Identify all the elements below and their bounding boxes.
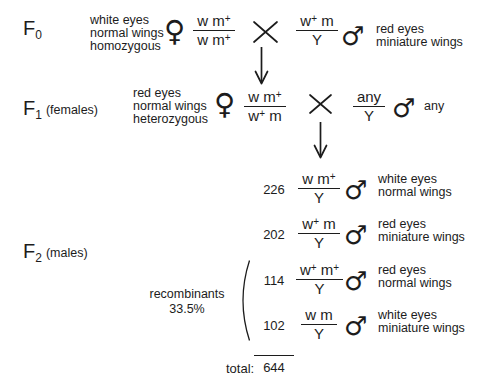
f2-row: 226 w m+ Y ♂ white eyes normal wings	[0, 169, 477, 211]
f1-label-suffix: (females)	[46, 103, 98, 117]
f0-generation-label: F0	[23, 17, 46, 42]
genotype-numerator: any	[353, 89, 385, 107]
f1-female-phenotype: red eyes normal wings heterozygous	[133, 87, 208, 126]
f1-label-letter: F	[23, 97, 35, 119]
male-symbol: ♂	[344, 222, 367, 248]
genotype-denominator: Y	[314, 189, 324, 206]
progeny-count: 114	[258, 273, 290, 288]
genotype-numerator: w m+	[244, 89, 285, 107]
progeny-count: 102	[258, 318, 290, 333]
genotype-numerator: w m	[301, 307, 337, 325]
phenotype: white eyes miniature wings	[378, 309, 465, 335]
down-arrow-icon	[312, 122, 329, 163]
f1-male-genotype-fraction: any Y	[351, 89, 387, 124]
f0-female-genotype-fraction: w m+ w m+	[192, 13, 236, 48]
genotype-numerator: w+ m	[296, 13, 337, 31]
genotype-denominator: Y	[364, 107, 374, 124]
f0-male-phenotype: red eyes miniature wings	[376, 23, 463, 49]
female-symbol: ♀	[214, 90, 235, 119]
progeny-count: 202	[258, 227, 290, 242]
f0-label-subscript: 0	[35, 28, 42, 42]
genotype-denominator: w m+	[197, 31, 230, 48]
cross-icon	[252, 20, 279, 48]
male-symbol: ♂	[392, 95, 415, 121]
cross-icon	[308, 93, 333, 119]
genotype-fraction: w+ m+ Y	[296, 262, 343, 297]
phenotype-line: normal wings	[378, 186, 452, 199]
genotype-fraction: w m+ Y	[296, 171, 342, 206]
genotype-numerator: w m+	[298, 171, 339, 189]
f0-female-phenotype: white eyes normal wings homozygous	[90, 14, 164, 53]
phenotype-line: heterozygous	[133, 113, 208, 126]
recombinant-brace	[234, 259, 252, 346]
genotype-denominator: Y	[314, 234, 324, 251]
phenotype-line: miniature wings	[378, 322, 465, 335]
f0-label-letter: F	[23, 17, 35, 39]
genotype-fraction: w+ m Y	[296, 216, 342, 251]
genotype-numerator: w m+	[193, 13, 234, 31]
phenotype-line: miniature wings	[378, 231, 465, 244]
genotype-numerator: w+ m+	[296, 262, 343, 280]
male-symbol: ♂	[344, 268, 367, 294]
phenotype: red eyes normal wings	[378, 264, 452, 290]
female-symbol: ♀	[164, 17, 185, 46]
phenotype-line: normal wings	[378, 277, 452, 290]
genotype-denominator: Y	[314, 325, 324, 342]
male-symbol: ♂	[341, 23, 364, 49]
recombinants-percent: 33.5%	[147, 303, 227, 316]
total-label: total:	[226, 361, 254, 376]
f2-row: 202 w+ m Y ♂ red eyes miniature wings	[0, 214, 477, 256]
male-symbol: ♂	[344, 177, 367, 203]
f1-male-phenotype: any	[424, 100, 444, 113]
genotype-denominator: Y	[312, 31, 322, 48]
total-value: 644	[254, 360, 294, 375]
genotype-numerator: w+ m	[298, 216, 339, 234]
f1-label-subscript: 1	[35, 108, 42, 122]
f1-generation-label: F1(females)	[23, 97, 98, 122]
f1-female-genotype-fraction: w m+ w+ m	[243, 89, 287, 124]
phenotype: red eyes miniature wings	[378, 218, 465, 244]
phenotype-line: miniature wings	[376, 36, 463, 49]
down-arrow-icon	[253, 47, 270, 89]
recombinants-annotation: recombinants 33.5%	[147, 288, 227, 316]
recombinants-label: recombinants	[147, 288, 227, 301]
genotype-fraction: w m Y	[296, 307, 342, 342]
male-symbol: ♂	[344, 313, 367, 339]
f0-male-genotype-fraction: w+ m Y	[295, 13, 339, 48]
genotype-denominator: w+ m	[248, 107, 281, 124]
phenotype-line: homozygous	[90, 40, 164, 53]
genotype-denominator: Y	[315, 280, 325, 297]
phenotype: white eyes normal wings	[378, 173, 452, 199]
cross-diagram: F0 white eyes normal wings homozygous ♀ …	[0, 0, 477, 391]
sum-line	[254, 355, 294, 356]
progeny-count: 226	[258, 182, 290, 197]
